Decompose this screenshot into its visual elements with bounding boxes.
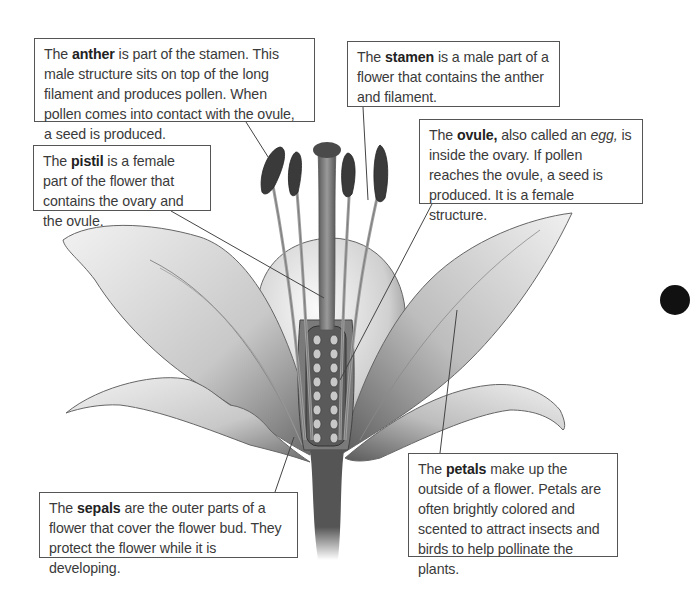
- pistil-callout: The pistil is a female part of the flowe…: [33, 145, 211, 211]
- stamen-term: stamen: [385, 49, 434, 65]
- stigma: [313, 142, 341, 158]
- ovule-callout: The ovule, also called an egg, is inside…: [419, 119, 643, 204]
- anther-callout: The anther is part of the stamen. This m…: [34, 38, 315, 122]
- sepals-callout: The sepals are the outer parts of a flow…: [39, 492, 298, 558]
- style: [318, 150, 336, 330]
- petals-term: petals: [446, 461, 486, 477]
- page-edge-dot: [660, 285, 690, 315]
- anther-term: anther: [72, 46, 115, 62]
- pistil-term: pistil: [71, 153, 104, 169]
- sepals-term: sepals: [77, 500, 121, 516]
- ovule-term: ovule,: [457, 127, 497, 143]
- stamen-callout: The stamen is a male part of a flower th…: [347, 41, 560, 107]
- petals-callout: The petals make up the outside of a flow…: [408, 453, 618, 557]
- egg-term: egg,: [590, 127, 617, 143]
- stem: [310, 450, 344, 560]
